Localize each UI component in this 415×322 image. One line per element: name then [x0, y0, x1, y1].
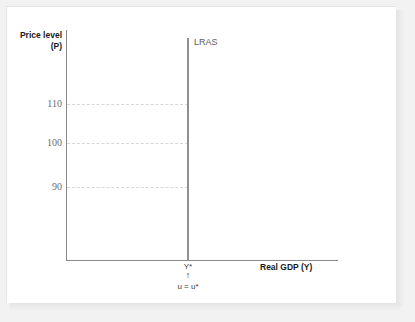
y-axis-title: Price level (P) — [8, 30, 62, 52]
y-tick-90: 90 — [16, 182, 62, 192]
y-tick-90-label: 90 — [18, 182, 62, 192]
y-tick-110: 110 — [16, 99, 62, 109]
natural-unemployment-label: u = u* — [148, 280, 228, 292]
y-tick-100-label: 100 — [18, 138, 62, 148]
lras-chart: Price level (P) 110 100 90 LRAS Real GDP… — [0, 0, 415, 322]
figure-screenshot: Price level (P) 110 100 90 LRAS Real GDP… — [0, 0, 415, 322]
y-axis-line — [66, 30, 67, 261]
gridline-110 — [67, 104, 188, 105]
x-axis-title: Real GDP (Y) — [260, 262, 312, 272]
gridline-90 — [67, 187, 188, 188]
potential-output-annotation: Y* ↑ u = u* — [148, 262, 228, 292]
gridline-100 — [67, 143, 188, 144]
y-axis-title-line1: Price level — [8, 30, 62, 41]
y-axis-title-line2: (P) — [8, 41, 62, 52]
lras-curve — [187, 38, 189, 261]
x-axis-line — [66, 260, 338, 261]
lras-curve-label: LRAS — [194, 37, 218, 47]
y-tick-100: 100 — [16, 138, 62, 148]
y-tick-110-label: 110 — [18, 99, 62, 109]
up-arrow-icon: ↑ — [148, 271, 228, 280]
